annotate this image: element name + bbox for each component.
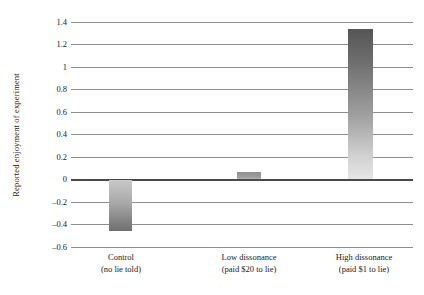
gridline--0.6	[71, 247, 413, 248]
y-tick-label-1.4: 1.4	[7, 18, 67, 27]
y-tick-label-0.4: 0.4	[7, 130, 67, 139]
x-axis-label-control-line1: Control	[108, 252, 134, 262]
y-tick-label-0.2: 0.2	[7, 153, 67, 162]
x-axis-label-high-dissonance-line2: (paid $1 to lie)	[289, 264, 424, 276]
y-tick-label-0.8: 0.8	[7, 85, 67, 94]
y-tick-label-1.2: 1.2	[7, 40, 67, 49]
bar-low-dissonance[interactable]	[237, 172, 261, 179]
y-tick-label--0.6: –0.6	[7, 243, 67, 252]
x-axis-label-high-dissonance: High dissonance (paid $1 to lie)	[289, 252, 424, 275]
gridline-1.4	[71, 22, 413, 23]
y-tick-label-0: 0	[7, 175, 67, 184]
y-tick-label-0.6: 0.6	[7, 108, 67, 117]
y-tick-label-1: 1	[7, 63, 67, 72]
x-axis-label-low-dissonance-line1: Low dissonance	[221, 252, 276, 262]
x-axis-label-high-dissonance-line1: High dissonance	[336, 252, 392, 262]
y-tick-label--0.2: –0.2	[7, 198, 67, 207]
plot-area	[71, 22, 413, 247]
bar-high-dissonance[interactable]	[348, 29, 373, 179]
y-tick-label--0.4: –0.4	[7, 220, 67, 229]
bar-chart: Reported enjoyment of experiment 1.4 1.2…	[0, 0, 424, 295]
bar-control[interactable]	[109, 180, 132, 231]
